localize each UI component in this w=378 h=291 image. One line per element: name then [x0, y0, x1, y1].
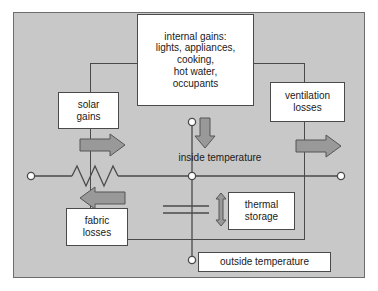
arrow-double-vertical-thermal-storage-icon	[216, 193, 226, 226]
outside-temperature-box: outside temperature	[198, 252, 331, 272]
node-internal-gains-icon	[188, 118, 195, 125]
internal-gains-box: internal gains: lights, appliances, cook…	[137, 14, 254, 106]
terminal-right-icon	[337, 172, 344, 179]
arrow-down-internal-gains-icon	[195, 118, 215, 148]
thermal-network-diagram: internal gains: lights, appliances, cook…	[0, 0, 378, 291]
arrow-left-fabric-losses-icon	[80, 187, 125, 209]
capacitor-plates	[163, 206, 209, 213]
resistor-zigzag	[72, 166, 118, 186]
terminal-left-icon	[27, 172, 34, 179]
inside-temperature-label: inside temperature	[160, 152, 280, 163]
main-horizontal-wire	[31, 166, 341, 186]
fabric-losses-box: fabric losses	[66, 208, 128, 246]
node-inside-temperature-icon	[188, 172, 195, 179]
ventilation-losses-box: ventilation losses	[270, 82, 345, 122]
solar-gains-box: solar gains	[58, 92, 119, 129]
node-outside-temperature-icon	[188, 256, 195, 263]
thermal-storage-box: thermal storage	[228, 192, 295, 230]
arrow-right-solar-gains-icon	[80, 134, 125, 156]
arrow-right-ventilation-losses-icon	[296, 135, 341, 157]
